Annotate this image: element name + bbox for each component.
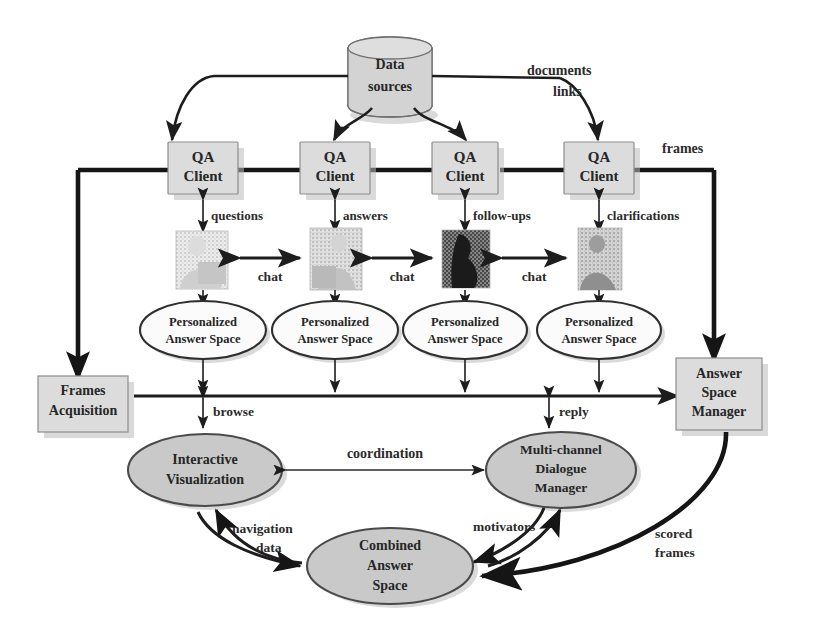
personalized-answer-space-1[interactable]: Personalized Answer Space <box>140 301 270 363</box>
qa-client-box-2[interactable]: QA Client <box>300 142 376 200</box>
label-follow-ups: follow-ups <box>473 208 531 223</box>
label-browse: browse <box>213 404 254 419</box>
interactive-visualization-node[interactable]: Interactive Visualization <box>128 434 287 510</box>
mcdm-line2: Dialogue <box>535 461 586 476</box>
pas-2-line1: Personalized <box>301 315 369 329</box>
data-sources-line1: Data <box>376 57 405 72</box>
qa-client-2-line1: QA <box>324 149 347 165</box>
label-scored-frames: frames <box>655 545 695 560</box>
label-links: links <box>553 84 582 99</box>
label-motivators: motivators <box>473 519 535 534</box>
pas-3-line1: Personalized <box>431 315 499 329</box>
qa-client-3-line2: Client <box>445 168 484 184</box>
mcdm-line1: Multi-channel <box>520 442 602 457</box>
label-chat-2: chat <box>390 269 415 284</box>
combined-answer-space-node[interactable]: Combined Answer Space <box>307 528 478 608</box>
asm-line3: Manager <box>692 404 746 419</box>
data-sources-line2: sources <box>368 79 413 94</box>
qa-client-4-line1: QA <box>588 149 611 165</box>
label-chat-1: chat <box>258 269 283 284</box>
qa-client-1-line2: Client <box>183 168 222 184</box>
diagram-canvas: QA Client QA Client QA Client QA Client <box>0 0 814 636</box>
label-navigation-data: data <box>256 540 282 555</box>
pas-2-line2: Answer Space <box>297 332 373 346</box>
frames-acquisition-node[interactable]: Frames Acquisition <box>38 376 134 438</box>
cas-line3: Space <box>373 578 408 593</box>
cas-line1: Combined <box>359 538 421 553</box>
qa-client-2-line2: Client <box>315 168 354 184</box>
pas-4-line1: Personalized <box>565 315 633 329</box>
participant-photo-2 <box>310 228 362 290</box>
iv-line1: Interactive <box>172 452 237 467</box>
qa-client-3-line1: QA <box>454 149 477 165</box>
participant-photo-1 <box>176 231 228 289</box>
frames-acquisition-line2: Acquisition <box>49 403 118 418</box>
frames-acquisition-line1: Frames <box>60 383 106 398</box>
label-frames: frames <box>662 141 704 156</box>
multi-channel-dialogue-manager-node[interactable]: Multi-channel Dialogue Manager <box>486 432 641 512</box>
pas-1-line1: Personalized <box>169 315 237 329</box>
pas-1-line2: Answer Space <box>165 332 241 346</box>
pas-to-bus-arrows <box>203 359 599 392</box>
answer-space-manager-node[interactable]: Answer Space Manager <box>676 358 768 436</box>
pas-3-line2: Answer Space <box>427 332 503 346</box>
label-answers: answers <box>343 208 388 223</box>
asm-line2: Space <box>702 385 737 400</box>
qa-client-4-line2: Client <box>579 168 618 184</box>
pas-4-line2: Answer Space <box>561 332 637 346</box>
label-navigation: navigation <box>232 521 293 536</box>
label-chat-3: chat <box>522 269 547 284</box>
person-to-pas-arrows <box>203 290 599 306</box>
qa-client-box-1[interactable]: QA Client <box>168 142 244 200</box>
personalized-answer-space-4[interactable]: Personalized Answer Space <box>537 301 665 363</box>
label-clarifications: clarifications <box>607 208 679 223</box>
participant-photo-4 <box>578 228 622 290</box>
cas-line2: Answer <box>367 558 413 573</box>
navigation-data-link <box>198 510 302 566</box>
participant-photo-3 <box>442 230 490 288</box>
personalized-answer-space-2[interactable]: Personalized Answer Space <box>272 301 402 363</box>
personalized-answer-space-3[interactable]: Personalized Answer Space <box>403 301 531 363</box>
label-scored: scored <box>655 526 693 541</box>
label-reply: reply <box>559 404 589 419</box>
label-questions: questions <box>211 208 263 223</box>
qa-client-1-line1: QA <box>192 149 215 165</box>
browse-reply-links <box>203 398 549 428</box>
label-coordination: coordination <box>347 446 423 461</box>
label-documents: documents <box>527 63 592 78</box>
architecture-diagram: QA Client QA Client QA Client QA Client <box>0 0 814 636</box>
asm-line1: Answer <box>696 366 742 381</box>
motivators-link <box>474 508 560 566</box>
qa-client-box-4[interactable]: QA Client <box>564 142 640 200</box>
iv-line2: Visualization <box>166 472 244 487</box>
qa-client-box-3[interactable]: QA Client <box>432 142 504 200</box>
mcdm-line3: Manager <box>535 480 587 495</box>
